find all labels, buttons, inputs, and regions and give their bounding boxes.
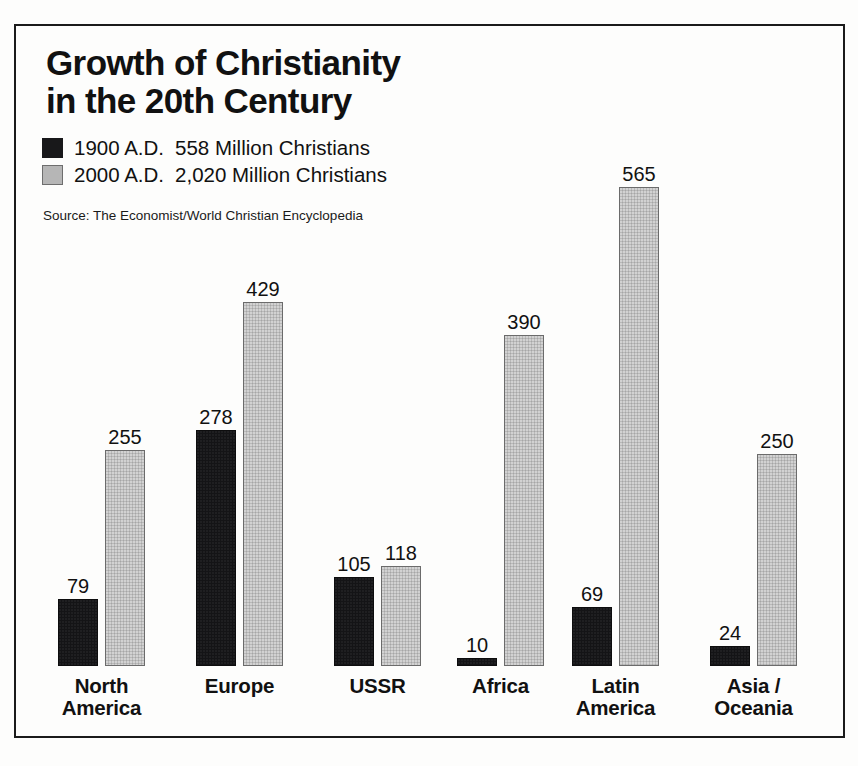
category-label-line-1: Africa	[472, 674, 529, 697]
category-label: Europe	[205, 675, 274, 697]
category-label-line-1: Asia /	[727, 674, 781, 697]
bar: 429	[243, 302, 283, 666]
category-label-line-1: Latin	[592, 674, 640, 697]
bar-value-label: 390	[507, 311, 540, 333]
bar-group: 278429Europe	[196, 665, 283, 666]
chart-page: Growth of Christianity in the 20th Centu…	[0, 0, 858, 766]
bar-group: 69565LatinAmerica	[572, 665, 659, 666]
bar-value-label: 429	[246, 278, 279, 300]
bar-value-label: 69	[581, 583, 603, 605]
bar-value-label: 278	[199, 406, 232, 428]
bar: 10	[457, 658, 497, 666]
bar-value-label: 255	[108, 426, 141, 448]
bar: 118	[381, 566, 421, 666]
category-label: LatinAmerica	[576, 675, 656, 719]
category-label: Africa	[472, 675, 529, 697]
category-label-line-2: Oceania	[714, 697, 792, 719]
category-label-line-1: USSR	[349, 674, 405, 697]
bar-value-label: 565	[622, 163, 655, 185]
bar: 79	[58, 599, 98, 666]
bar-group: 105118USSR	[334, 665, 421, 666]
category-label-line-1: Europe	[205, 674, 274, 697]
chart-frame: Growth of Christianity in the 20th Centu…	[14, 24, 845, 738]
bar: 105	[334, 577, 374, 666]
bar: 69	[572, 607, 612, 666]
bar-value-label: 118	[385, 542, 417, 564]
category-label-line-1: North	[75, 674, 129, 697]
category-label: USSR	[349, 675, 405, 697]
bar: 278	[196, 430, 236, 666]
bar: 565	[619, 187, 659, 666]
category-label: NorthAmerica	[62, 675, 142, 719]
bar-group: 24250Asia /Oceania	[710, 665, 797, 666]
bar: 250	[757, 454, 797, 666]
bar-group: 10390Africa	[457, 665, 544, 666]
bar-value-label: 79	[67, 575, 89, 597]
bar-value-label: 10	[466, 634, 488, 656]
bar-value-label: 24	[719, 622, 741, 644]
category-label-line-2: America	[62, 697, 142, 719]
category-label-line-2: America	[576, 697, 656, 719]
category-label: Asia /Oceania	[714, 675, 792, 719]
bar: 24	[710, 646, 750, 666]
bar-value-label: 250	[760, 430, 793, 452]
bar: 255	[105, 450, 145, 666]
bar-value-label: 105	[337, 553, 370, 575]
bar: 390	[504, 335, 544, 666]
bar-group: 79255NorthAmerica	[58, 665, 145, 666]
chart-plot-area: 79255NorthAmerica278429Europe105118USSR1…	[16, 26, 847, 740]
